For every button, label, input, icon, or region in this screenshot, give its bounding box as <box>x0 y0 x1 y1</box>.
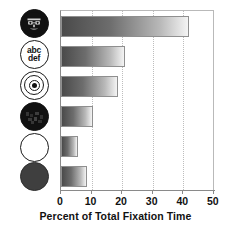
x-tick-label-0: 0 <box>48 195 72 207</box>
x-tick-40 <box>182 190 183 194</box>
gridline-30 <box>153 11 154 190</box>
bullseye-target-icon <box>20 71 49 100</box>
bar-filled-gray-circle <box>61 166 87 187</box>
def-line: def <box>27 54 41 63</box>
x-axis-line <box>60 190 215 191</box>
stimulus-cell-filled-gray-circle <box>10 161 58 191</box>
stimulus-cell-bullseye <box>10 70 58 100</box>
x-tick-label-30: 30 <box>140 195 164 207</box>
stimulus-cell-empty-circle <box>10 132 58 162</box>
stimulus-cell-face <box>10 8 58 38</box>
plot-area <box>60 10 214 190</box>
fixation-time-bar-chart: abc def <box>0 0 231 228</box>
x-tick-30 <box>152 190 153 194</box>
x-tick-50 <box>213 190 214 194</box>
abc-def-text-icon: abc def <box>20 40 49 69</box>
stimulus-cell-abc-def: abc def <box>10 39 58 69</box>
x-axis-title: Percent of Total Fixation Time <box>0 210 231 222</box>
face-icon <box>20 9 49 38</box>
x-tick-label-50: 50 <box>201 195 225 207</box>
gridline-10 <box>92 11 93 190</box>
x-tick-label-10: 10 <box>79 195 103 207</box>
gridline-40 <box>183 11 184 190</box>
stimulus-icon-column: abc def <box>10 8 58 190</box>
bar-empty-circle <box>61 136 78 157</box>
scrambled-face-icon <box>20 102 49 131</box>
filled-gray-circle-icon <box>20 162 49 191</box>
bar-face <box>61 16 189 37</box>
gridline-20 <box>122 11 123 190</box>
x-tick-0 <box>60 190 61 194</box>
x-tick-10 <box>91 190 92 194</box>
bar-abc-def-text <box>61 46 125 67</box>
x-tick-label-40: 40 <box>170 195 194 207</box>
x-tick-label-20: 20 <box>109 195 133 207</box>
bar-scrambled-face <box>61 106 93 127</box>
stimulus-cell-scrambled-face <box>10 101 58 131</box>
bar-bullseye-target <box>61 76 118 97</box>
empty-circle-icon <box>20 133 49 162</box>
x-tick-20 <box>121 190 122 194</box>
